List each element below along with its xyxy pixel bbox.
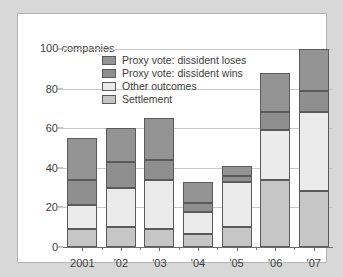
- bar-segment[interactable]: [67, 229, 97, 247]
- bar-segment[interactable]: [183, 182, 213, 204]
- bar-segment[interactable]: [183, 212, 213, 234]
- bar-segment[interactable]: [260, 180, 290, 247]
- legend-swatch-icon: [102, 95, 116, 104]
- x-tick-label: '05: [215, 257, 259, 269]
- bar-segment[interactable]: [260, 130, 290, 180]
- x-tick-mark: [121, 247, 122, 251]
- bar-segment[interactable]: [260, 112, 290, 130]
- y-tick-mark-80: [58, 88, 63, 89]
- y-tick-mark-60: [58, 128, 63, 129]
- y-tick-label-80: 80: [46, 83, 58, 95]
- y-tick-mark-0: [58, 247, 63, 248]
- bar-segment[interactable]: [106, 162, 136, 188]
- x-tick-mark: [314, 247, 315, 251]
- bar-segment[interactable]: [299, 112, 329, 190]
- y-tick-label-0: 0: [52, 241, 58, 253]
- x-tick-label: '02: [99, 257, 143, 269]
- x-tick-mark: [82, 247, 83, 251]
- x-tick-label: '06: [253, 257, 297, 269]
- legend-item[interactable]: Proxy vote: dissident loses: [102, 54, 246, 67]
- legend-swatch-icon: [102, 82, 116, 91]
- bar-segment[interactable]: [67, 138, 97, 180]
- bar-segment[interactable]: [106, 128, 136, 162]
- x-tick-minor: [294, 247, 295, 250]
- y-tick-mark-100: [58, 49, 63, 50]
- legend-item[interactable]: Proxy vote: dissident wins: [102, 67, 246, 80]
- x-tick-mark: [237, 247, 238, 251]
- bar-segment[interactable]: [144, 229, 174, 247]
- gridline-100: [63, 49, 333, 50]
- bar-segment[interactable]: [260, 73, 290, 113]
- gridline-60: [63, 128, 333, 129]
- legend-item-label: Other outcomes: [122, 81, 197, 92]
- x-tick-minor: [256, 247, 257, 250]
- bar-segment[interactable]: [222, 227, 252, 247]
- bar-segment[interactable]: [183, 203, 213, 212]
- legend-swatch-icon: [102, 56, 116, 65]
- bar-segment[interactable]: [299, 91, 329, 113]
- y-tick-label-20: 20: [46, 201, 58, 213]
- x-tick-label: 2001: [60, 257, 104, 269]
- bar-segment[interactable]: [106, 188, 136, 228]
- legend-item[interactable]: Other outcomes: [102, 80, 246, 93]
- y-tick-mark-40: [58, 167, 63, 168]
- x-tick-label: '03: [137, 257, 181, 269]
- x-tick-minor: [217, 247, 218, 250]
- x-tick-mark: [275, 247, 276, 251]
- y-tick-label-40: 40: [46, 162, 58, 174]
- bar-segment[interactable]: [299, 191, 329, 247]
- bar-segment[interactable]: [299, 49, 329, 91]
- x-tick-label: '04: [176, 257, 220, 269]
- bar-segment[interactable]: [144, 180, 174, 230]
- legend-item[interactable]: Settlement: [102, 93, 246, 106]
- legend-swatch-icon: [102, 69, 116, 78]
- bar-segment[interactable]: [222, 182, 252, 228]
- bar-segment[interactable]: [222, 176, 252, 182]
- x-tick-minor: [140, 247, 141, 250]
- figure-root: 100 companies 020406080 2001'02'03'04'05…: [0, 0, 343, 277]
- bar-segment[interactable]: [222, 166, 252, 176]
- bar-segment[interactable]: [67, 205, 97, 229]
- x-tick-mark: [198, 247, 199, 251]
- bar-segment[interactable]: [67, 180, 97, 206]
- y-tick-mark-20: [58, 207, 63, 208]
- legend-item-label: Proxy vote: dissident loses: [122, 55, 246, 66]
- chart-legend: Proxy vote: dissident losesProxy vote: d…: [102, 54, 246, 106]
- chart-card: 100 companies 020406080 2001'02'03'04'05…: [17, 13, 327, 263]
- legend-item-label: Settlement: [122, 94, 172, 105]
- x-tick-minor: [179, 247, 180, 250]
- bar-segment[interactable]: [183, 234, 213, 247]
- bar-segment[interactable]: [144, 118, 174, 160]
- legend-item-label: Proxy vote: dissident wins: [122, 68, 243, 79]
- x-tick-label: '07: [292, 257, 336, 269]
- bar-segment[interactable]: [106, 227, 136, 247]
- bar-segment[interactable]: [144, 160, 174, 180]
- gridline-40: [63, 168, 333, 169]
- y-tick-label-60: 60: [46, 122, 58, 134]
- x-tick-mark: [159, 247, 160, 251]
- x-tick-minor: [102, 247, 103, 250]
